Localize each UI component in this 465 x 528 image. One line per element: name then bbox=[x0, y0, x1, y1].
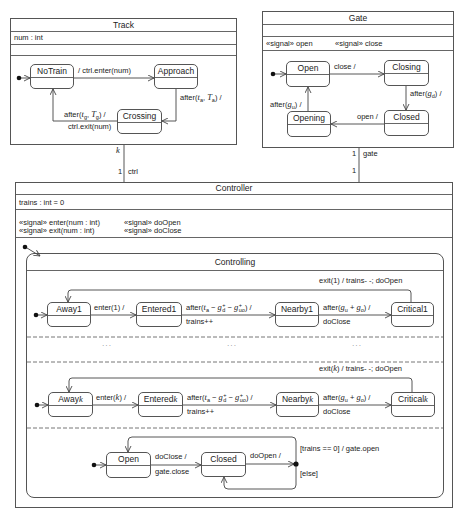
label-part: ) / bbox=[245, 303, 252, 312]
controller-title: Controller bbox=[216, 183, 253, 193]
state-gate-closed[interactable]: Closed bbox=[384, 110, 429, 136]
label-part: ) / bbox=[435, 89, 442, 98]
track-operations bbox=[11, 45, 236, 56]
transition-label-nearby-to-critical-1: after(gu + go) / bbox=[323, 302, 370, 313]
state-ctrl-closed[interactable]: Closed bbox=[201, 452, 246, 477]
label-part: ) / bbox=[119, 393, 126, 402]
transition-label-exitk: exit(k) / trains- -; doOpen bbox=[319, 363, 402, 374]
gate-title: Gate bbox=[349, 13, 367, 23]
state-name: Entered1 bbox=[137, 303, 181, 316]
transition-effect-gate-close: gate.close bbox=[155, 466, 189, 477]
guard-else: [else] bbox=[300, 468, 318, 479]
label-part: after( bbox=[186, 303, 204, 312]
state-entered1[interactable]: Entered1 bbox=[136, 302, 182, 327]
label-part: after( bbox=[64, 110, 82, 119]
label-part: ) / bbox=[99, 110, 106, 119]
assoc-ctrl-role: ctrl bbox=[128, 166, 138, 177]
transition-label-open: open / bbox=[357, 111, 378, 122]
state-awayk[interactable]: Awayk bbox=[48, 392, 93, 417]
state-name: Critical1 bbox=[392, 303, 433, 316]
label-part: ) / bbox=[215, 93, 222, 102]
ellipsis-1: ··· bbox=[102, 342, 112, 350]
ellipsis-3: ··· bbox=[352, 342, 362, 350]
state-name: Nearbyk bbox=[277, 393, 318, 406]
math-var: g bbox=[218, 302, 222, 312]
transition-label-enter: / ctrl.enter(num) bbox=[78, 65, 131, 76]
controller-attribute-trains: trains : int = 0 bbox=[19, 197, 64, 208]
ellipsis-2: ··· bbox=[227, 342, 237, 350]
transition-label-exit1: exit(1) / trains- -; doOpen bbox=[319, 275, 402, 286]
transition-label-crossing-after: after(tg, Tg) / bbox=[64, 109, 106, 120]
label-part: Away bbox=[58, 394, 79, 404]
math-var: k bbox=[116, 145, 120, 155]
state-name: NoTrain bbox=[31, 65, 73, 78]
label-part: Nearby bbox=[282, 394, 309, 404]
state-name: Open bbox=[287, 62, 329, 75]
gate-signal-open: «signal» open bbox=[266, 38, 313, 49]
transition-label-doclose: doClose / bbox=[155, 451, 187, 462]
math-var: k bbox=[79, 394, 83, 404]
state-name: Nearby1 bbox=[276, 303, 318, 316]
math-var: k bbox=[309, 394, 313, 404]
state-name: Approach bbox=[155, 65, 197, 78]
state-name: Criticalk bbox=[392, 393, 434, 406]
label-part: exit( bbox=[319, 364, 333, 373]
transition-label-ctrl-exit: ctrl.exit(num) bbox=[68, 121, 111, 132]
state-nearbyk[interactable]: Nearbyk bbox=[276, 392, 319, 417]
uml-diagram: Track num : int Gate «signal» open «sign… bbox=[0, 0, 465, 528]
state-enteredk[interactable]: Enteredk bbox=[138, 392, 183, 417]
state-name: Open bbox=[107, 453, 150, 466]
state-name: Opening bbox=[288, 112, 330, 125]
state-nearby1[interactable]: Nearby1 bbox=[275, 302, 319, 327]
transition-label-enterk: enter(k) / bbox=[96, 392, 126, 403]
label-part: after( bbox=[323, 393, 341, 402]
assoc-track-multiplicity: k bbox=[116, 145, 120, 156]
state-approach[interactable]: Approach bbox=[154, 64, 198, 89]
state-ctrl-open[interactable]: Open bbox=[106, 452, 151, 478]
track-attributes: num : int bbox=[11, 32, 236, 45]
state-name: Crossing bbox=[118, 110, 161, 123]
transition-label-approach-after: after(ta, Ta) / bbox=[180, 92, 222, 103]
transition-label-entered-to-nearby-1: after(ta − g+d − g+uo) / bbox=[186, 302, 252, 313]
controller-attributes: trains : int = 0 bbox=[16, 195, 452, 210]
state-crossing[interactable]: Crossing bbox=[117, 109, 162, 134]
gate-signal-close: «signal» close bbox=[335, 38, 383, 49]
label-part: enter( bbox=[96, 393, 116, 402]
math-var: g bbox=[235, 392, 239, 402]
gate-signals: «signal» open «signal» close bbox=[263, 37, 453, 51]
label-part: ) / bbox=[246, 393, 253, 402]
gate-class-title: Gate bbox=[263, 12, 453, 25]
label-part: Entered bbox=[144, 394, 174, 404]
transition-label-after-gd: after(gd) / bbox=[410, 88, 442, 99]
state-name: Closed bbox=[385, 111, 428, 124]
state-gate-opening[interactable]: Opening bbox=[287, 111, 331, 137]
label-part: − bbox=[225, 303, 234, 312]
transition-label-after-gu: after(gu) / bbox=[270, 99, 302, 110]
state-name: Away1 bbox=[48, 303, 90, 316]
state-critical1[interactable]: Critical1 bbox=[391, 302, 434, 327]
label-part: − bbox=[209, 303, 218, 312]
state-name: Closed bbox=[202, 453, 245, 466]
state-notrain[interactable]: NoTrain bbox=[30, 64, 74, 89]
state-name: Enteredk bbox=[139, 393, 182, 406]
label-part: after( bbox=[270, 100, 288, 109]
state-away1[interactable]: Away1 bbox=[47, 302, 91, 327]
controller-class-title: Controller bbox=[16, 183, 452, 195]
transition-effect-trains-inc-1: trains++ bbox=[186, 316, 213, 327]
math-var: g bbox=[234, 302, 238, 312]
transition-effect-doclose-1: doClose bbox=[323, 316, 351, 327]
label-part: after( bbox=[410, 89, 428, 98]
controlling-title: Controlling bbox=[27, 254, 443, 271]
label-part: ) / bbox=[295, 100, 302, 109]
label-part: Critical bbox=[398, 394, 424, 404]
label-part: − bbox=[210, 393, 219, 402]
transition-label-enter1: enter(1) / bbox=[94, 302, 124, 313]
label-part: − bbox=[226, 393, 235, 402]
state-gate-open[interactable]: Open bbox=[286, 61, 330, 87]
state-criticalk[interactable]: Criticalk bbox=[391, 392, 435, 417]
label-part: after( bbox=[180, 93, 198, 102]
assoc-gate-role: gate bbox=[363, 148, 378, 159]
label-part: ) / trains- -; doOpen bbox=[337, 364, 402, 373]
state-gate-closing[interactable]: Closing bbox=[384, 60, 429, 86]
assoc-gate-multiplicity: 1 bbox=[352, 148, 356, 159]
